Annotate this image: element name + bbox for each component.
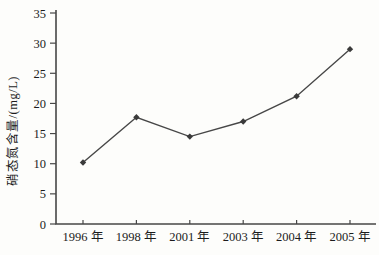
x-tick-label: 2004 年 [276,230,317,244]
x-tick-label: 1996 年 [62,230,103,244]
y-axis-title: 硝态氮含量/(mg/L) [2,76,21,186]
x-tick-label: 2005 年 [329,230,370,244]
y-tick-label: 0 [40,218,46,232]
y-tick-label: 35 [34,7,47,21]
x-tick-label: 1998 年 [116,230,157,244]
y-tick-label: 5 [40,187,46,201]
y-tick-label: 30 [34,37,47,51]
x-tick-label: 2003 年 [223,230,264,244]
chart-svg: 051015202530351996 年1998 年2001 年2003 年20… [0,0,379,255]
y-tick-label: 25 [34,67,47,81]
data-line [83,49,350,162]
data-point-marker [187,133,193,139]
x-tick-label: 2001 年 [169,230,210,244]
y-tick-label: 20 [34,97,47,111]
y-tick-label: 15 [34,127,47,141]
data-point-marker [240,118,246,124]
y-tick-label: 10 [34,157,47,171]
nitrate-line-chart: 051015202530351996 年1998 年2001 年2003 年20… [0,0,379,255]
axis-lines [56,10,376,224]
